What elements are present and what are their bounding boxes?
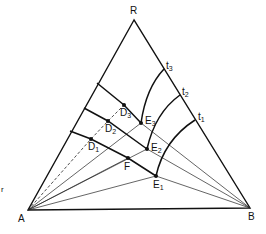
label-t3: t3: [166, 61, 173, 72]
label-D1: D1: [88, 142, 99, 153]
label-E3: E3: [145, 116, 156, 127]
point-E1: [154, 174, 158, 178]
point-F: [126, 156, 130, 160]
tie-lines-from-A: [28, 123, 156, 210]
vertex-label-B: B: [248, 212, 255, 222]
label-t2: t2: [182, 87, 189, 98]
vertex-label-A: A: [18, 214, 25, 224]
ternary-diagram: [0, 0, 266, 234]
label-F: F: [124, 162, 130, 172]
label-D2: D2: [105, 124, 116, 135]
margin-mark: r: [1, 186, 4, 194]
tie-lines-to-B: [141, 123, 250, 208]
vertex-label-R: R: [130, 6, 137, 16]
triangle-outline: [28, 20, 250, 210]
label-t1: t1: [198, 112, 205, 123]
label-E2: E2: [151, 143, 162, 154]
label-D3: D3: [120, 108, 131, 119]
point-E3: [139, 121, 143, 125]
point-E2: [145, 147, 149, 151]
label-E1: E1: [153, 180, 164, 191]
